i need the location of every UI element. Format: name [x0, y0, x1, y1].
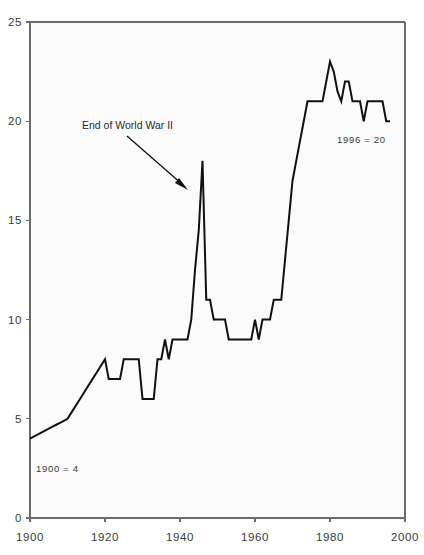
plot-area-background: [30, 22, 405, 518]
y-tick-label: 20: [8, 115, 22, 127]
y-axis-ticks: 0510152025: [8, 16, 30, 524]
line-chart: 0510152025 190019201940196019802000 End …: [0, 0, 424, 555]
x-tick-label: 1980: [316, 531, 344, 543]
wwii-annotation-label: End of World War II: [82, 119, 173, 131]
y-tick-label: 0: [15, 512, 22, 524]
x-tick-label: 1960: [241, 531, 269, 543]
start-value-note: 1900 = 4: [36, 463, 79, 474]
y-tick-label: 25: [8, 16, 22, 28]
x-tick-label: 1940: [166, 531, 194, 543]
x-tick-label: 1920: [91, 531, 119, 543]
x-tick-label: 1900: [16, 531, 44, 543]
chart-page: 0510152025 190019201940196019802000 End …: [0, 0, 424, 555]
y-tick-label: 5: [15, 413, 22, 425]
y-tick-label: 15: [8, 214, 22, 226]
y-tick-label: 10: [8, 314, 22, 326]
x-axis-ticks: 190019201940196019802000: [16, 518, 419, 543]
x-tick-label: 2000: [391, 531, 419, 543]
end-value-note: 1996 = 20: [337, 134, 386, 145]
